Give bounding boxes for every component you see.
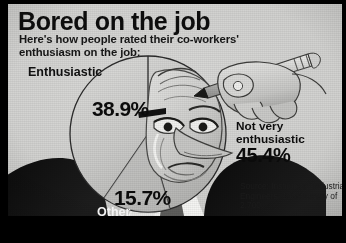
subtitle: Here's how people rated their co-workers… <box>19 33 269 58</box>
source-note: Source: Institute of Industrial Engineer… <box>240 182 342 211</box>
slice-label-not-very-enthusiastic: Not very enthusiastic <box>236 120 332 145</box>
slice-label-enthusiastic: Enthusiastic <box>28 65 102 79</box>
paper-background: Bored on the job Here's how people rated… <box>8 4 342 216</box>
page-title: Bored on the job <box>18 7 210 35</box>
slice-value-not-very-enthusiastic: 45.4% <box>236 144 290 167</box>
infographic-canvas: Bored on the job Here's how people rated… <box>0 0 346 243</box>
slice-value-other: 15.7% <box>114 186 171 210</box>
slice-value-enthusiastic: 38.9% <box>92 97 149 121</box>
